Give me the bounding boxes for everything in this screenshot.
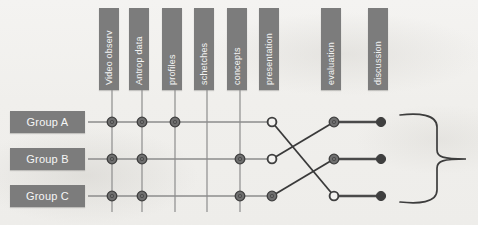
node-group-b-video-observ[interactable] — [107, 154, 117, 164]
node-group-b-antrop-data[interactable] — [137, 154, 147, 164]
node-group-a-presentation[interactable] — [268, 118, 277, 127]
network-graphic — [0, 0, 478, 225]
node-disc-a[interactable] — [376, 117, 385, 126]
node-group-a-video-observ[interactable] — [107, 117, 117, 127]
node-eval-a[interactable] — [329, 117, 339, 127]
cross-link-group-a-presentation-to-eval-c — [272, 122, 334, 196]
node-group-b-presentation[interactable] — [268, 155, 277, 164]
node-group-c-presentation[interactable] — [267, 191, 277, 201]
node-eval-c[interactable] — [330, 192, 339, 201]
node-group-a-profiles[interactable] — [170, 117, 180, 127]
node-disc-c[interactable] — [376, 191, 385, 200]
right-curly-brace — [400, 114, 466, 203]
cross-link-group-b-presentation-to-eval-a — [272, 122, 334, 159]
node-group-c-concepts[interactable] — [235, 191, 245, 201]
node-group-b-concepts[interactable] — [235, 154, 245, 164]
node-group-c-video-observ[interactable] — [107, 191, 117, 201]
node-group-a-antrop-data[interactable] — [137, 117, 147, 127]
cross-link-group-c-presentation-to-eval-b — [272, 159, 334, 196]
node-eval-b[interactable] — [329, 154, 339, 164]
node-group-c-antrop-data[interactable] — [137, 191, 147, 201]
diagram-canvas: Video observAntrop dataprofilesschetches… — [0, 0, 478, 225]
node-disc-b[interactable] — [376, 154, 385, 163]
